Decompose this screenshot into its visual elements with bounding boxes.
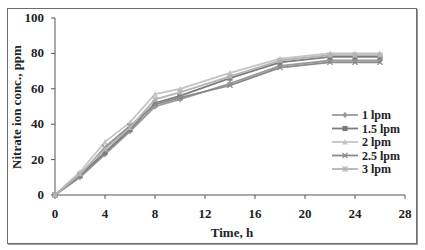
y-tick-label: 20 [31, 152, 44, 167]
legend-item: 3 lpm [332, 162, 391, 176]
y-tick-label: 100 [25, 10, 45, 25]
x-tick-label: 28 [399, 206, 413, 221]
x-tick-label: 24 [349, 206, 363, 221]
x-axis-label: Time, h [211, 225, 254, 240]
legend-item: 2 lpm [332, 135, 391, 149]
y-tick-label: 60 [31, 81, 44, 96]
x-tick-label: 4 [102, 206, 109, 221]
legend: 1 lpm1.5 lpm2 lpm2.5 lpm3 lpm [332, 108, 400, 176]
y-axis-label: Nitrate ion conc., ppm [9, 45, 24, 169]
x-tick-label: 20 [299, 206, 312, 221]
legend-label: 1.5 lpm [362, 122, 400, 136]
legend-item: 1.5 lpm [332, 122, 400, 136]
legend-item: 1 lpm [332, 108, 391, 122]
legend-item: 2.5 lpm [332, 149, 400, 163]
data-series [52, 50, 382, 198]
x-tick-label: 12 [199, 206, 212, 221]
series-3-lpm [52, 53, 382, 198]
legend-label: 2.5 lpm [362, 149, 400, 163]
legend-label: 3 lpm [362, 162, 391, 176]
series-1_5-lpm [52, 54, 382, 197]
y-tick-label: 80 [31, 45, 44, 60]
legend-label: 2 lpm [362, 135, 391, 149]
y-tick-label: 40 [31, 116, 44, 131]
x-tick-label: 16 [249, 206, 263, 221]
y-tick-label: 0 [38, 187, 45, 202]
line-chart: 0204060801000481216202428 1 lpm1.5 lpm2 … [0, 0, 425, 250]
series-2-lpm [52, 50, 382, 197]
legend-label: 1 lpm [362, 108, 391, 122]
x-tick-label: 8 [152, 206, 159, 221]
x-tick-label: 0 [52, 206, 59, 221]
